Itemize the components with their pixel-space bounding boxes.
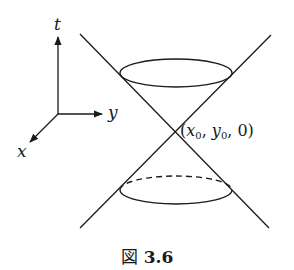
t-value: 0 xyxy=(237,121,247,140)
t-axis-label: t xyxy=(54,16,61,33)
y-axis-label: y xyxy=(108,104,118,121)
figure-caption: 図3.6 xyxy=(0,243,294,268)
separator: , xyxy=(227,121,237,140)
coordinate-axes xyxy=(30,37,102,142)
lower-cone-ellipse-back-dashed xyxy=(120,176,232,190)
caption-prefix: 図 xyxy=(121,247,138,267)
y-var: y xyxy=(212,121,221,140)
x-axis xyxy=(30,114,58,142)
upper-cone-ellipse xyxy=(120,59,232,87)
x-axis-label: x xyxy=(17,143,27,160)
separator: , xyxy=(202,121,212,140)
paren-close: ) xyxy=(248,121,254,140)
apex-coordinate-label: (x0, y0, 0) xyxy=(180,123,254,141)
lower-cone-ellipse-front xyxy=(120,190,232,204)
caption-number: 3.6 xyxy=(144,247,174,267)
x-var: x xyxy=(186,121,195,140)
